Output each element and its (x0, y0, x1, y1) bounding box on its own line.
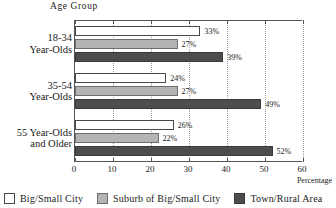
plot-area: 33%27%39%24%27%49%26%22%52% (74, 20, 302, 162)
bar-value-label: 27% (182, 88, 197, 96)
bar[interactable] (75, 26, 200, 36)
chart-legend: Big/Small City Suburb of Big/Small City … (4, 190, 334, 206)
bar[interactable] (75, 133, 159, 143)
bar-value-label: 52% (277, 148, 292, 156)
legend-item-label: Town/Rural Area (250, 193, 322, 204)
x-tick-label: 40 (222, 164, 231, 174)
legend-swatch-icon (4, 193, 15, 204)
bar-value-label: 27% (182, 41, 197, 49)
y-axis-title: Age Group (50, 1, 98, 11)
x-tick-label: 50 (260, 164, 269, 174)
category-label-line: and Older (17, 138, 72, 150)
legend-item-suburb[interactable]: Suburb of Big/Small City (97, 193, 220, 204)
bar[interactable] (75, 120, 174, 130)
bar-group: 24%27%49% (75, 67, 302, 114)
category-label-line: 55 Year-Olds (17, 127, 72, 139)
legend-swatch-icon (234, 193, 245, 204)
bar-chart: Age Group 33%27%39%24%27%49%26%22%52% 18… (0, 0, 336, 208)
x-axis-title: Percentage (297, 176, 332, 185)
bar-value-label: 33% (204, 28, 219, 36)
bar-value-label: 49% (265, 101, 280, 109)
category-label-line: Year-Olds (30, 44, 72, 56)
bar[interactable] (75, 86, 178, 96)
legend-swatch-icon (97, 193, 108, 204)
bar[interactable] (75, 39, 178, 49)
bar-group: 33%27%39% (75, 20, 302, 67)
axis-tick (303, 158, 304, 162)
bar-group: 26%22%52% (75, 115, 302, 162)
bar[interactable] (75, 52, 223, 62)
x-tick-label: 30 (184, 164, 193, 174)
bar[interactable] (75, 73, 166, 83)
category-label-line: 18-34 (30, 32, 72, 44)
axis-tick (303, 20, 304, 24)
x-tick-label: 10 (108, 164, 117, 174)
x-tick-label: 20 (146, 164, 155, 174)
bar-value-label: 26% (178, 122, 193, 130)
bar[interactable] (75, 146, 273, 156)
legend-item-label: Big/Small City (20, 193, 83, 204)
category-label: 35-54Year-Olds (30, 80, 72, 103)
bar-value-label: 24% (170, 75, 185, 83)
legend-item-label: Suburb of Big/Small City (113, 193, 220, 204)
category-label-line: 35-54 (30, 80, 72, 92)
bar-value-label: 22% (163, 135, 178, 143)
legend-item-big-small-city[interactable]: Big/Small City (4, 193, 83, 204)
category-label: 18-34Year-Olds (30, 32, 72, 55)
gridline (303, 20, 304, 162)
x-tick-label: 0 (72, 164, 77, 174)
legend-item-town-rural[interactable]: Town/Rural Area (234, 193, 322, 204)
x-tick-label: 60 (298, 164, 307, 174)
category-label-line: Year-Olds (30, 91, 72, 103)
category-label: 55 Year-Oldsand Older (17, 127, 72, 150)
bar[interactable] (75, 99, 261, 109)
bar-value-label: 39% (227, 54, 242, 62)
